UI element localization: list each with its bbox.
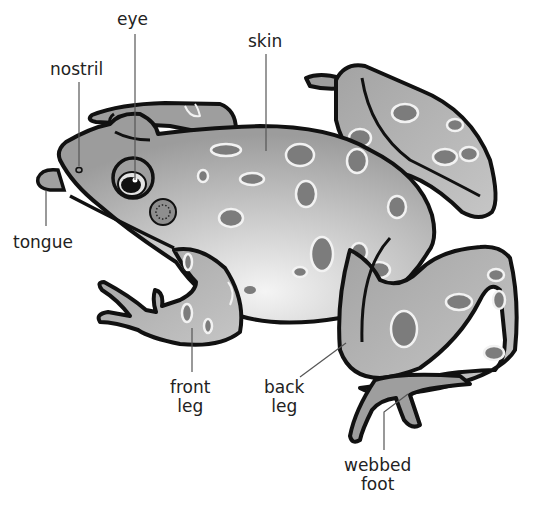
label-text: tongue [13,233,73,252]
label-text: back [264,378,304,397]
label-text: foot [344,475,411,494]
label-text: nostril [50,60,103,79]
label-tongue: tongue [13,233,73,252]
eye-shape [113,158,153,198]
label-text: front [170,378,210,397]
label-eye: eye [117,10,148,29]
label-text: leg [264,397,304,416]
frog-diagram: eye nostril skin tongue front leg back l… [0,0,533,507]
leader-back-leg [300,343,346,377]
label-text: webbed [344,456,411,475]
near-back-leg [339,238,517,394]
webbed-foot-shape [350,375,470,442]
front-leg-shape [99,249,242,345]
label-front-leg: front leg [170,378,210,416]
label-webbed-foot: webbed foot [344,456,411,494]
tongue-shape [38,170,64,190]
label-text: eye [117,10,148,29]
eardrum-shape [150,199,176,225]
label-skin: skin [248,32,282,51]
label-text: leg [170,397,210,416]
label-text: skin [248,32,282,51]
label-back-leg: back leg [264,378,304,416]
label-nostril: nostril [50,60,103,79]
